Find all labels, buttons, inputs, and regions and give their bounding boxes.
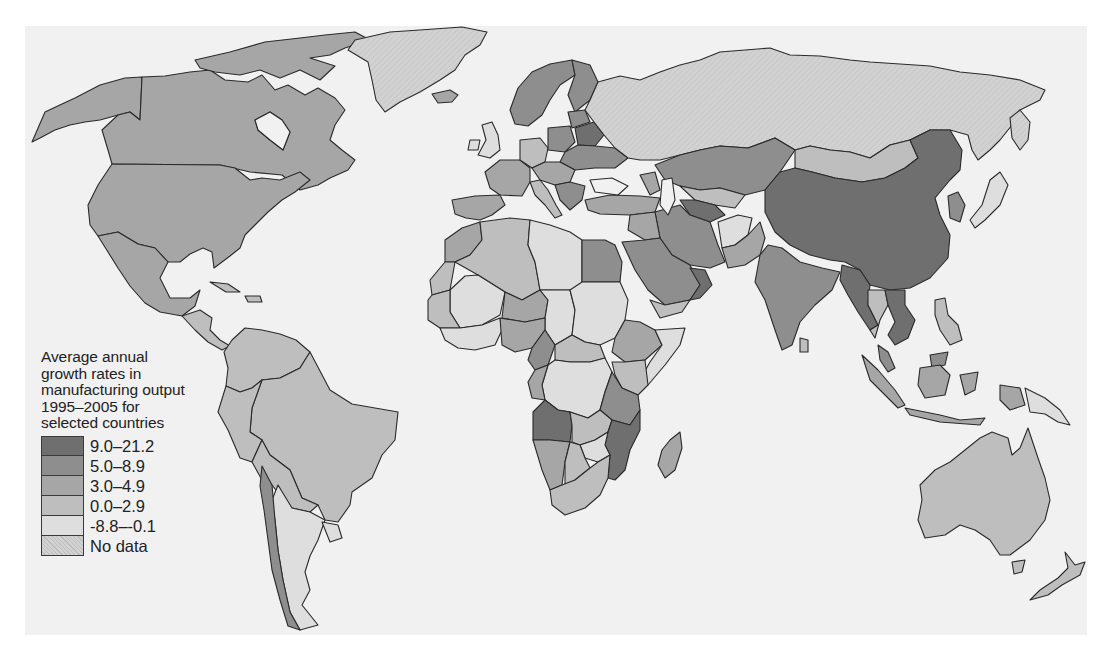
legend-swatch xyxy=(41,456,84,476)
region-uruguay[interactable] xyxy=(322,522,342,542)
region-cuba[interactable] xyxy=(210,282,240,292)
region-balkans[interactable] xyxy=(555,182,585,210)
region-philippines[interactable] xyxy=(935,298,962,345)
region-australia[interactable] xyxy=(918,428,1050,555)
legend-title-line: growth rates in xyxy=(41,366,241,383)
region-japan[interactable] xyxy=(970,172,1008,228)
region-caucasus[interactable] xyxy=(640,172,660,195)
region-vietnam[interactable] xyxy=(885,290,915,345)
legend-item: 3.0–4.9 xyxy=(41,476,241,496)
region-new-zealand[interactable] xyxy=(1030,552,1085,600)
legend-label: -8.8–-0.1 xyxy=(90,516,156,536)
region-uk[interactable] xyxy=(468,122,500,158)
region-spain[interactable] xyxy=(452,195,505,220)
legend-label: 5.0–8.9 xyxy=(90,456,145,476)
region-iceland[interactable] xyxy=(432,90,458,103)
region-scandinavia[interactable] xyxy=(510,60,575,126)
legend-item: 5.0–8.9 xyxy=(41,456,241,476)
map-legend: Average annual growth rates in manufactu… xyxy=(41,349,241,556)
legend-swatch xyxy=(41,476,84,496)
legend-swatch xyxy=(41,536,84,556)
legend-title-line: selected countries xyxy=(41,415,241,432)
region-iraq-syria[interactable] xyxy=(628,212,660,240)
region-central-america[interactable] xyxy=(182,310,230,350)
legend-swatch xyxy=(41,516,84,536)
region-france[interactable] xyxy=(485,160,530,196)
region-turkey[interactable] xyxy=(585,195,660,215)
legend-swatch xyxy=(41,496,84,516)
region-sri-lanka[interactable] xyxy=(800,338,808,352)
legend-label: 0.0–2.9 xyxy=(90,496,145,516)
region-tasmania[interactable] xyxy=(1012,560,1025,574)
region-russia[interactable] xyxy=(585,48,1045,160)
region-papua-new-guinea[interactable] xyxy=(1025,388,1070,425)
legend-item: 0.0–2.9 xyxy=(41,496,241,516)
legend-item: 9.0–21.2 xyxy=(41,436,241,456)
legend-title-line: manufacturing output xyxy=(41,382,241,399)
legend-label: 3.0–4.9 xyxy=(90,476,145,496)
legend-swatch xyxy=(41,436,84,456)
region-kamchatka[interactable] xyxy=(1010,110,1030,150)
region-madagascar[interactable] xyxy=(658,432,682,478)
region-poland[interactable] xyxy=(548,126,575,152)
region-korea[interactable] xyxy=(948,192,965,222)
legend-label: No data xyxy=(90,536,148,556)
region-canada-arctic[interactable] xyxy=(195,32,370,80)
legend-title: Average annual growth rates in manufactu… xyxy=(41,349,241,432)
legend-label: 9.0–21.2 xyxy=(90,436,154,456)
legend-items: 9.0–21.2 5.0–8.9 3.0–4.9 0.0–2.9 -8.8–-0… xyxy=(41,436,241,556)
region-egypt[interactable] xyxy=(582,240,622,282)
region-hispaniola[interactable] xyxy=(245,296,262,302)
region-india[interactable] xyxy=(755,245,840,350)
legend-item: -8.8–-0.1 xyxy=(41,516,241,536)
region-black-sea xyxy=(590,178,628,195)
map-panel: Average annual growth rates in manufactu… xyxy=(25,26,1087,635)
region-greenland[interactable] xyxy=(348,27,487,112)
legend-title-line: 1995–2005 for xyxy=(41,399,241,416)
legend-title-line: Average annual xyxy=(41,349,241,366)
legend-item: No data xyxy=(41,536,241,556)
